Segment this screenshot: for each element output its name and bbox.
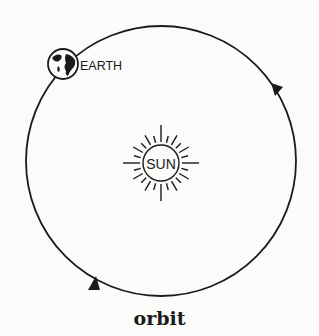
direction-arrow-right-icon	[271, 83, 283, 96]
earth-icon	[48, 49, 78, 79]
orbit-illustration: SUN EARTH	[0, 0, 319, 336]
caption: orbit	[0, 307, 319, 329]
earth-label: EARTH	[80, 59, 122, 73]
sun-label: SUN	[146, 156, 176, 172]
orbit-diagram: SUN EARTH orbit	[0, 0, 319, 336]
